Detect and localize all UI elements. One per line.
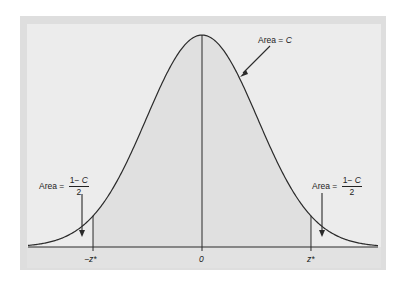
left-numerator-var: C (82, 175, 88, 185)
right-fraction-denominator: 2 (342, 187, 362, 197)
center-area-prefix: Area = (258, 35, 286, 45)
right-numerator-one-minus: 1− (343, 175, 355, 185)
center-area-label: Area = C (258, 36, 292, 45)
right-fraction-numerator: 1− C (342, 176, 362, 187)
axis-band (27, 247, 381, 268)
right-area-fraction: 1− C2 (342, 176, 362, 196)
normal-curve-figure (0, 0, 406, 284)
left-fraction-denominator: 2 (69, 187, 89, 197)
tick-label-zero: 0 (199, 255, 204, 264)
center-area-var: C (286, 35, 292, 45)
right-numerator-var: C (355, 175, 361, 185)
left-numerator-one-minus: 1− (70, 175, 82, 185)
left-area-label: Area = 1− C2 (39, 176, 89, 196)
right-area-label: Area = 1− C2 (312, 176, 362, 196)
left-fraction-numerator: 1− C (69, 176, 89, 187)
left-area-fraction: 1− C2 (69, 176, 89, 196)
right-area-prefix: Area = (312, 181, 340, 191)
left-area-prefix: Area = (39, 181, 67, 191)
tick-label-neg-zstar: −z* (84, 255, 97, 264)
tick-label-zstar: z* (307, 255, 315, 264)
